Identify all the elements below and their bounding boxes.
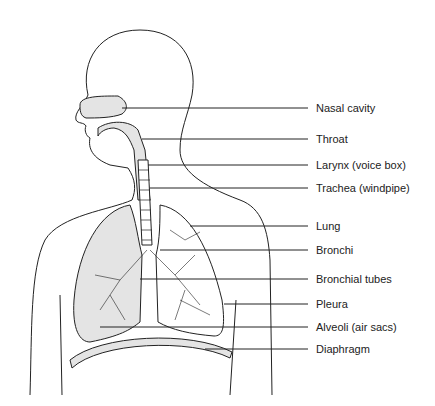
label-alveoli: Alveoli (air sacs): [316, 321, 397, 333]
label-pleura: Pleura: [316, 298, 348, 310]
label-lung: Lung: [316, 220, 340, 232]
label-diaphragm: Diaphragm: [316, 343, 370, 355]
label-bronchial-tubes: Bronchial tubes: [316, 273, 392, 285]
label-trachea: Trachea (windpipe): [316, 182, 410, 194]
label-nasal-cavity: Nasal cavity: [316, 102, 375, 114]
label-throat: Throat: [316, 133, 348, 145]
label-bronchi: Bronchi: [316, 244, 353, 256]
label-larynx: Larynx (voice box): [316, 159, 406, 171]
